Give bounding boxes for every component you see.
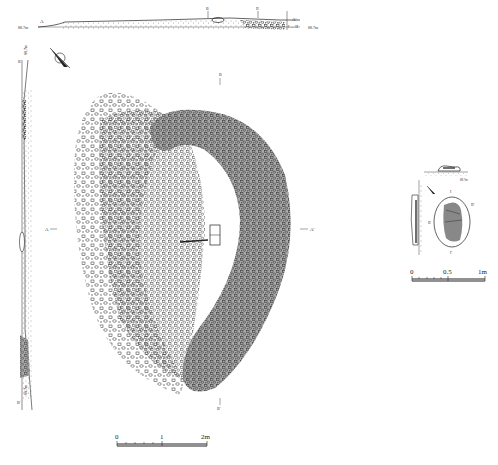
- plan-b-label: B: [219, 72, 222, 77]
- detail-scale-tick-0: 0: [410, 268, 414, 276]
- plan-a-prime-label: A': [310, 227, 315, 232]
- detail-scale-tick-2: 1m: [478, 268, 488, 276]
- left-section-profile: B 88.7m B' 88.7m: [17, 44, 32, 410]
- section-feature-outline: [20, 232, 25, 252]
- detail-top-label: I: [450, 189, 452, 194]
- inset-label: I — II: [288, 24, 299, 29]
- north-arrow-icon: [50, 48, 70, 68]
- marker-2-label: II: [256, 6, 259, 11]
- detail-caption: 88.7m: [460, 178, 468, 182]
- detail-scale-tick-1: 0.5: [443, 268, 452, 276]
- scale-tick-1: 1: [160, 433, 164, 441]
- section-b-prime-label: B': [17, 400, 21, 405]
- plan-b-prime-label: B': [217, 406, 221, 411]
- left-elevation-label: 88.7m: [18, 25, 29, 30]
- detail-bottom-label: I': [450, 250, 452, 255]
- scale-tick-0: 0: [115, 433, 119, 441]
- marker-1-label: B: [206, 6, 209, 11]
- top-elevation-label: 88.7m: [23, 44, 28, 55]
- right-elevation-label: 88.7m: [308, 25, 319, 30]
- section-a-label: A: [40, 19, 44, 24]
- site-plan-drawing: A 88.7m B II A' I — II 88.7m B 88.7m B' …: [0, 0, 498, 465]
- main-plan: A A' B B': [45, 72, 315, 411]
- section-a-prime-label: A': [292, 17, 297, 22]
- main-scale-bar: 0 1 2m: [115, 433, 211, 446]
- detail-drawing: 88.7m I I' II II': [411, 166, 474, 255]
- section-b-label: B: [18, 59, 21, 64]
- detail-right-label: II': [471, 202, 475, 207]
- detail-north-arrow-icon: [427, 186, 435, 194]
- bottom-elevation-label: 88.7m: [23, 384, 28, 395]
- plan-a-label: A: [45, 227, 49, 232]
- scale-tick-2: 2m: [201, 433, 211, 441]
- detail-scale-bar: 0 0.5 1m: [410, 268, 488, 281]
- top-section-profile: A 88.7m B II A' I — II 88.7m: [18, 6, 319, 30]
- detail-left-label: II: [428, 220, 431, 225]
